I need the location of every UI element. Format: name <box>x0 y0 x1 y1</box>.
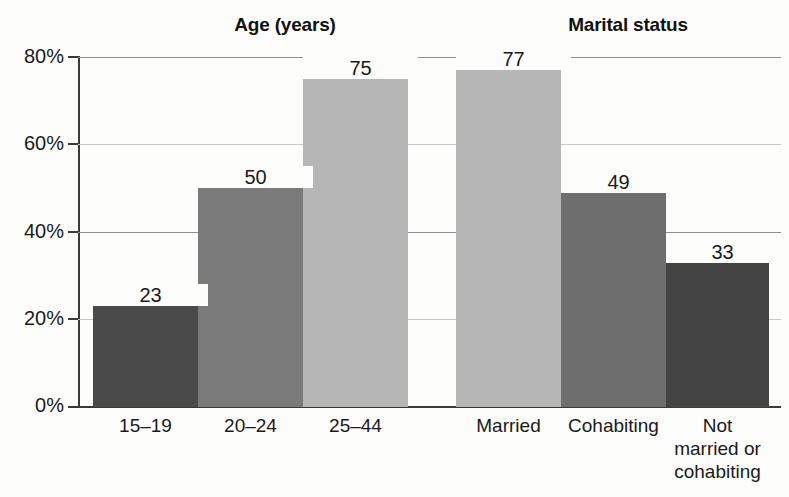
value-label-cohabiting: 49 <box>561 171 676 193</box>
y-tick-label-40: 40% <box>2 220 64 243</box>
y-tick-label-60: 60% <box>2 132 64 155</box>
x-category-label-not-married-line3: cohabiting <box>666 460 769 483</box>
gridline-40 <box>78 232 781 233</box>
x-category-label-cohabiting: Cohabiting <box>556 414 671 437</box>
x-category-label-age-15-19: 15–19 <box>93 414 198 437</box>
gridline-60 <box>78 144 781 145</box>
bar-cohabiting <box>561 193 666 407</box>
value-label-married: 77 <box>456 48 571 70</box>
x-category-label-not-married-line1: Not <box>666 414 769 437</box>
bar-married <box>456 70 561 407</box>
bar-age-20-24 <box>198 188 303 407</box>
x-category-label-age-20-24: 20–24 <box>198 414 303 437</box>
y-tick-label-20: 20% <box>2 307 64 330</box>
panel-title-age: Age (years) <box>185 14 385 36</box>
gridline-80 <box>78 57 781 58</box>
bar-age-25-44 <box>303 79 408 407</box>
value-label-age-25-44: 75 <box>303 57 418 79</box>
bar-age-15-19 <box>93 306 198 407</box>
y-tick-label-80: 80% <box>2 45 64 68</box>
y-tick-label-0: 0% <box>2 394 64 417</box>
panel-title-marital: Marital status <box>518 14 738 36</box>
x-category-label-age-25-44: 25–44 <box>303 414 408 437</box>
bar-not-married <box>666 263 769 407</box>
value-label-not-married: 33 <box>666 241 779 263</box>
x-category-label-married: Married <box>456 414 561 437</box>
y-axis-labels: 80% 60% 40% 20% 0% <box>0 0 64 497</box>
plot-area: 23 50 75 77 49 33 <box>78 57 781 407</box>
value-label-age-15-19: 23 <box>93 284 208 306</box>
bar-chart: Age (years) Marital status 80% 60% 40% 2… <box>0 0 789 497</box>
value-label-age-20-24: 50 <box>198 166 313 188</box>
x-category-label-not-married-line2: married or <box>666 437 769 460</box>
x-category-label-not-married: Not married or cohabiting <box>666 414 769 483</box>
